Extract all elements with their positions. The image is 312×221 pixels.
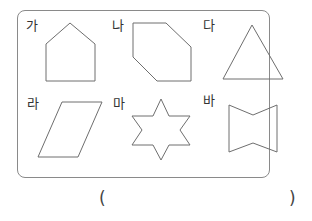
shape-ra-parallelogram xyxy=(38,102,102,157)
label-ra: 라 xyxy=(27,97,39,110)
label-na: 나 xyxy=(112,19,124,32)
shape-na-hexagon xyxy=(133,23,191,81)
shape-da-triangle xyxy=(223,25,283,79)
answer-blank[interactable] xyxy=(112,190,287,210)
label-ga: 가 xyxy=(26,19,38,32)
label-ba: 바 xyxy=(203,94,215,107)
answer-close-paren: ) xyxy=(289,190,296,207)
shapes-canvas xyxy=(0,0,312,221)
shape-ma-star xyxy=(132,99,190,160)
answer-open-paren: ( xyxy=(99,190,106,207)
label-da: 다 xyxy=(203,19,215,32)
shape-ga-pentagon xyxy=(46,23,95,81)
shape-ba-bowtie xyxy=(229,105,277,152)
label-ma: 마 xyxy=(113,97,125,110)
